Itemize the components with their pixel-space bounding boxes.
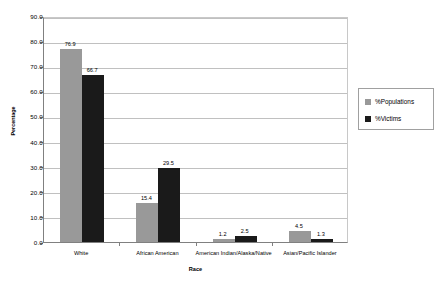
y-axis-tick-mark [40,42,43,43]
y-axis-tick-label: 90.0 [9,14,43,20]
y-axis-tick-label: 80.0 [9,39,43,45]
x-axis-category-label: White [37,250,125,257]
x-axis-category-label: American Indian/Alaska/Native [190,250,278,257]
bar-value-label: 4.5 [282,223,316,229]
y-axis: Percentage 0.010.020.030.040.050.060.070… [0,0,43,288]
bar-chart: Percentage 0.010.020.030.040.050.060.070… [0,0,440,288]
y-axis-tick-label: 60.0 [9,89,43,95]
legend-label-victims: %Victims [375,115,401,122]
bar-victims [158,168,180,242]
legend: %Populations %Victims [358,88,434,130]
y-axis-tick-label: 10.0 [9,215,43,221]
bar-value-label: 15.4 [129,195,163,201]
gridline [44,18,347,19]
bar-populations [136,203,158,242]
x-axis-category-label: African American [113,250,201,257]
plot-area [43,17,348,243]
y-axis-tick-mark [40,17,43,18]
y-axis-tick-label: 30.0 [9,165,43,171]
bar-populations [60,49,82,242]
y-axis-tick-mark [40,167,43,168]
y-axis-tick-label: 0.0 [9,240,43,246]
bar-victims [311,239,333,242]
legend-entry-populations: %Populations [365,97,414,106]
legend-label-populations: %Populations [375,98,414,105]
bar-value-label: 2.5 [228,228,262,234]
legend-swatch-icon-victims [365,116,371,122]
bar-victims [82,75,104,242]
y-axis-tick-mark [40,117,43,118]
legend-entry-victims: %Victims [365,114,401,123]
bar-value-label: 76.9 [53,41,87,47]
x-axis-title: Race [43,266,348,273]
y-axis-tick-mark [40,243,43,244]
y-axis-tick-mark [40,142,43,143]
bar-populations [213,239,235,242]
x-axis-tick-mark [196,243,197,246]
x-axis-tick-mark [272,243,273,246]
y-axis-tick-label: 20.0 [9,190,43,196]
x-axis-category-label: Asian/Pacific Islander [266,250,354,257]
y-axis-tick-label: 40.0 [9,140,43,146]
y-axis-tick-label: 50.0 [9,114,43,120]
bar-value-label: 29.5 [151,160,185,166]
gridline [44,43,347,44]
x-axis-tick-mark [119,243,120,246]
y-axis-tick-mark [40,192,43,193]
y-axis-tick-label: 70.0 [9,64,43,70]
y-axis-tick-mark [40,67,43,68]
bar-value-label: 1.3 [304,231,338,237]
y-axis-tick-mark [40,92,43,93]
bar-value-label: 66.7 [75,67,109,73]
y-axis-tick-mark [40,217,43,218]
legend-swatch-icon-populations [365,99,371,105]
